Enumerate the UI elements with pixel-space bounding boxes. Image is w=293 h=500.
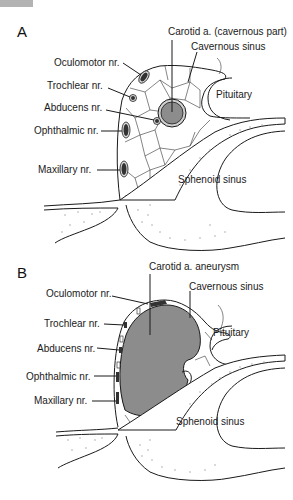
label-ophthalmic-b: Ophthalmic nr. [26,371,90,382]
label-abducens-b: Abducens nr. [37,343,95,354]
label-carotid-a: Carotid a. (cavernous part) [168,26,287,37]
label-pituitary-a: Pituitary [216,89,252,100]
label-sphenoid-sinus-b: Sphenoid sinus [176,416,244,427]
cavernous-sinus-diagram: A [0,0,293,500]
label-cavernous-sinus-a: Cavernous sinus [191,41,265,52]
label-oculomotor-a: Oculomotor nr. [54,57,120,68]
maxillary-nerve-core-a [122,163,127,175]
abducens-nerve-b [119,347,122,353]
sphenoid-bone-upper-a [120,118,285,200]
sphenoid-bone-lower-a [126,205,285,250]
panel-b: B [17,261,285,480]
left-bone-b [56,434,118,468]
label-ophthalmic-a: Ophthalmic nr. [34,125,98,136]
label-sphenoid-sinus-a: Sphenoid sinus [178,174,246,185]
trochlear-nerve-b [124,322,127,328]
label-maxillary-b: Maxillary nr. [34,395,87,406]
abducens-nerve-core-a [155,119,159,123]
label-abducens-a: Abducens nr. [44,102,102,113]
trochlear-nerve-core-a [131,96,135,100]
panel-a-letter: A [17,23,27,40]
sphenoid-bone-lower-b [126,436,285,480]
panel-a: A [17,23,287,250]
label-carotid-aneurysm-b: Carotid a. aneurysm [149,261,239,272]
label-maxillary-a: Maxillary nr. [38,164,91,175]
ophthalmic-nerve-core-a [124,124,129,136]
label-cavernous-sinus-b: Cavernous sinus [189,281,263,292]
panel-b-letter: B [17,264,27,281]
left-bone-a [44,208,118,243]
sphenoid-sinus-wall-b [217,368,285,449]
ophthalmic-nerve-b [116,372,119,382]
sphenoid-sinus-wall-a [217,131,285,213]
label-trochlear-b: Trochlear nr. [44,318,100,329]
label-pituitary-b: Pituitary [213,327,249,338]
label-oculomotor-b: Oculomotor nr. [46,288,112,299]
maxillary-nerve-b [116,392,119,404]
label-trochlear-a: Trochlear nr. [47,80,103,91]
dura-left-a [44,200,120,206]
dura-left-b [56,428,118,432]
